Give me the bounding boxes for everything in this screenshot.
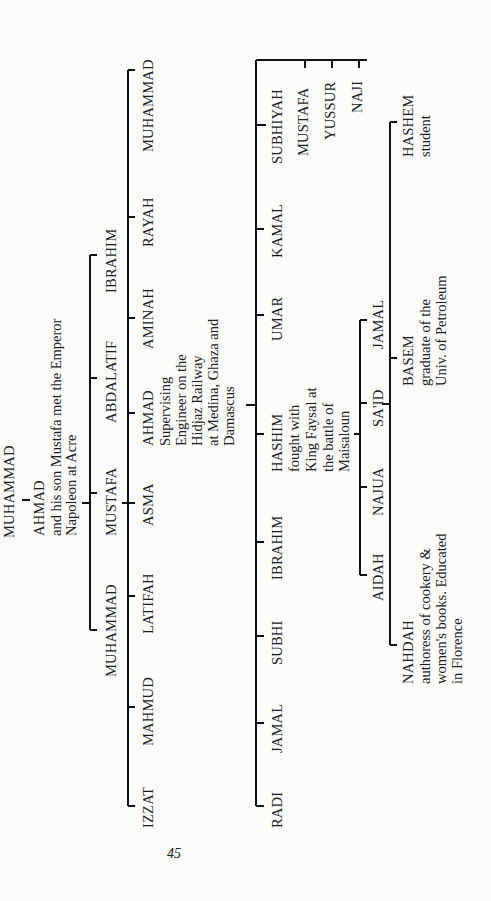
gen3-ahmad-note-1: Supervising [157,377,173,446]
gen4-hashim-note-2: King Faysal at [303,387,319,472]
gen3-name-aminah: AMINAH [140,288,156,349]
gen3-ahmad-note-4: at Medina, Ghaza and [205,318,221,446]
gen3-name-ahmad: AHMAD [140,390,156,446]
gen5-name-aidah: AIDAH [370,553,386,601]
gen4-name-subhiyah: SUBHIYAH [269,89,285,164]
page-number: 45 [167,846,181,861]
gen3-name-muhammad: MUHAMMAD [140,59,156,152]
gen4-name-jamal: JAMAL [269,704,285,753]
gen4-name-ibrahim: IBRAHIM [269,516,285,580]
gen5-name-najua: NAJUA [370,467,386,516]
ahmad-name: AHMAD [31,480,47,536]
gen3-name-asma: ASMA [140,483,156,526]
gen2-name-mustafa: MUSTAFA [103,467,119,536]
root-name: MUHAMMAD [1,445,17,538]
gen4-hashim-note-1: fought with [286,404,302,472]
gen6-basem-note-2: Univ. of Petroleum [433,275,449,386]
gen3-name-latifah: LATIFAH [140,573,156,634]
gen2-name-abdalatif: ABDALATIF [103,341,119,423]
gen4-name-hashim: HASHIM [269,414,285,472]
gen4-hashim-note-4: Maisaloun [336,410,352,472]
ahmad-note-line2: Napoleon at Acre [63,435,79,536]
gen6-nahdah-note-1: authoress of cookery & [417,548,433,684]
gen4-name-naji: NAJI [349,81,365,113]
gen3-name-rayah: RAYAH [140,197,156,247]
gen6-name-basem: BASEM [400,335,416,386]
gen4-name-kamal: KAMAL [269,204,285,258]
gen5-name-said: SA'ID [370,390,386,427]
gen6-basem-note-1: graduate of the [417,299,433,386]
gen4-name-radi: RADI [269,792,285,828]
ahmad-note-line1: and his son Mustafa met the Emperor [48,318,64,536]
gen6-nahdah-note-2: women's books. Educated [433,533,449,684]
family-tree-page: MUHAMMAD AHMAD and his son Mustafa met t… [0,0,491,901]
gen6-name-hashem: HASHEM [400,95,416,157]
gen5-name-jamal: JAMAL [370,300,386,349]
gen3-ahmad-note-5: Damascus [221,386,237,446]
gen3-name-mahmud: MAHMUD [140,677,156,746]
gen4-name-subhi: SUBHI [269,620,285,665]
gen3-ahmad-note-3: Hidjaz Railway [189,355,205,446]
gen6-nahdah-note-3: in Florence [449,618,465,684]
gen4-name-mustafa: MUSTAFA [295,87,311,156]
gen6-hashem-note-1: student [417,115,433,157]
gen2-name-muhammad: MUHAMMAD [103,584,119,677]
gen6-name-nahdah: NAHDAH [400,620,416,684]
gen3-name-izzat: IZZAT [140,787,156,828]
gen4-hashim-note-3: the battle of [320,403,336,472]
tree-labels: MUHAMMAD AHMAD and his son Mustafa met t… [1,59,465,861]
gen4-name-umar: UMAR [269,297,285,341]
gen3-ahmad-note-2: Engineer on the [173,354,189,446]
gen2-name-ibrahim: IBRAHIM [103,229,119,293]
gen4-name-yussur: YUSSUR [322,81,338,140]
